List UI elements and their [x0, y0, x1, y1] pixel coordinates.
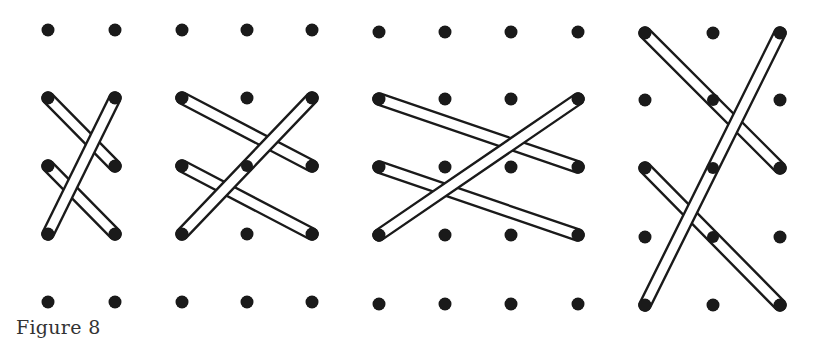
- grid-dot-overlay: [373, 298, 385, 310]
- grid-dot-overlay: [439, 229, 451, 241]
- grid-dot-overlay: [639, 162, 651, 174]
- grid-dot-overlay: [774, 27, 786, 39]
- rod: [373, 93, 585, 242]
- grid-dot-overlay: [42, 160, 54, 172]
- grid-dot-overlay: [176, 160, 188, 172]
- panel-2: [176, 24, 319, 309]
- grid-dot-overlay: [42, 296, 54, 308]
- grid-dot-overlay: [176, 92, 188, 104]
- grid-dot-overlay: [109, 160, 121, 172]
- grid-dot-overlay: [306, 24, 318, 36]
- grid-dot-overlay: [572, 93, 584, 105]
- grid-dot-overlay: [572, 298, 584, 310]
- grid-dot-overlay: [306, 296, 318, 308]
- grid-dot-overlay: [639, 231, 651, 243]
- figure-8-diagram: [0, 0, 828, 342]
- grid-dot-overlay: [109, 228, 121, 240]
- grid-dot-overlay: [373, 26, 385, 38]
- grid-dot-overlay: [439, 26, 451, 38]
- grid-dot-overlay: [572, 26, 584, 38]
- grid-dot-overlay: [241, 92, 253, 104]
- grid-dot-overlay: [774, 94, 786, 106]
- grid-dot-overlay: [241, 296, 253, 308]
- grid-dot-overlay: [42, 24, 54, 36]
- grid-dot-overlay: [572, 229, 584, 241]
- figure-caption: Figure 8: [16, 316, 101, 338]
- grid-dot-overlay: [176, 24, 188, 36]
- grid-dot-overlay: [505, 161, 517, 173]
- grid-dot-overlay: [42, 228, 54, 240]
- grid-dot-overlay: [774, 299, 786, 311]
- grid-dot-overlay: [439, 161, 451, 173]
- grid-dot-overlay: [774, 231, 786, 243]
- grid-dot-overlay: [176, 296, 188, 308]
- grid-dot-overlay: [306, 228, 318, 240]
- grid-dot-overlay: [707, 231, 719, 243]
- grid-dot-overlay: [639, 27, 651, 39]
- grid-dot-overlay: [572, 161, 584, 173]
- grid-dot-overlay: [373, 93, 385, 105]
- grid-dot-overlay: [241, 24, 253, 36]
- grid-dot-overlay: [505, 229, 517, 241]
- grid-dot-overlay: [505, 298, 517, 310]
- grid-dot-overlay: [42, 92, 54, 104]
- grid-dot-overlay: [774, 162, 786, 174]
- grid-dot-overlay: [707, 162, 719, 174]
- grid-dot-overlay: [306, 92, 318, 104]
- grid-dot-overlay: [707, 299, 719, 311]
- panel-1: [42, 24, 122, 309]
- grid-dot-overlay: [639, 94, 651, 106]
- grid-dot-overlay: [639, 299, 651, 311]
- grid-dot-overlay: [439, 93, 451, 105]
- panel-4: [639, 27, 787, 312]
- grid-dot-overlay: [707, 94, 719, 106]
- grid-dot-overlay: [306, 160, 318, 172]
- grid-dot-overlay: [109, 296, 121, 308]
- grid-dot-overlay: [439, 298, 451, 310]
- grid-dot-overlay: [373, 161, 385, 173]
- grid-dot-overlay: [241, 228, 253, 240]
- grid-dot-overlay: [109, 24, 121, 36]
- grid-dot-overlay: [373, 229, 385, 241]
- grid-dot-overlay: [505, 93, 517, 105]
- panel-3: [373, 26, 585, 311]
- grid-dot-overlay: [176, 228, 188, 240]
- grid-dot-overlay: [241, 160, 253, 172]
- grid-dot-overlay: [109, 92, 121, 104]
- grid-dot-overlay: [707, 27, 719, 39]
- grid-dot-overlay: [505, 26, 517, 38]
